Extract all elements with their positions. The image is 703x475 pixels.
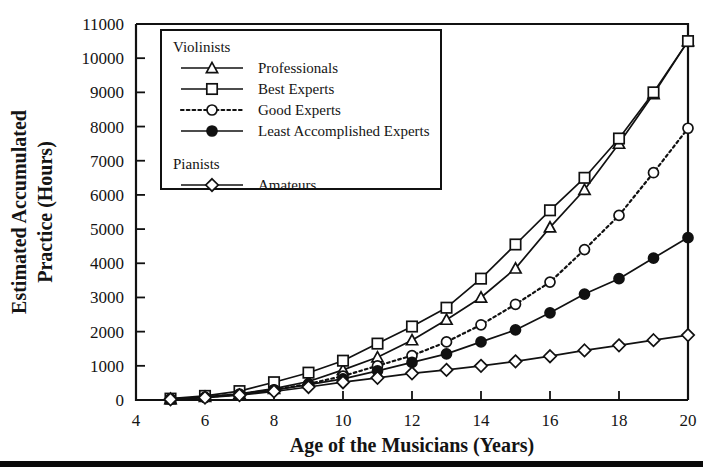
square-marker xyxy=(338,355,348,365)
legend-entry-label: Good Experts xyxy=(258,102,341,118)
square-marker xyxy=(579,173,589,183)
x-tick-label: 14 xyxy=(473,411,491,430)
x-tick-label: 16 xyxy=(542,411,559,430)
x-axis-title: Age of the Musicians (Years) xyxy=(290,434,534,457)
square-marker xyxy=(372,338,382,348)
circle-marker xyxy=(683,123,693,133)
y-tick-label: 3000 xyxy=(90,288,124,307)
legend-entry-label: Least Accomplished Experts xyxy=(258,123,430,139)
filled-circle-marker xyxy=(476,337,486,347)
filled-circle-marker xyxy=(580,289,590,299)
x-tick-label: 8 xyxy=(270,411,279,430)
diamond-marker xyxy=(578,344,590,356)
circle-marker xyxy=(649,168,659,178)
series-least-accomplished-experts xyxy=(166,233,694,405)
x-tick-label: 10 xyxy=(335,411,352,430)
triangle-marker xyxy=(441,314,452,324)
x-tick-label: 20 xyxy=(680,411,697,430)
square-marker xyxy=(510,239,520,249)
circle-marker xyxy=(476,320,486,330)
filled-circle-marker xyxy=(683,233,693,243)
circle-marker xyxy=(545,277,555,287)
diamond-marker xyxy=(682,329,694,341)
square-marker xyxy=(683,36,693,46)
square-marker xyxy=(441,303,451,313)
diamond-marker xyxy=(613,339,625,351)
diamond-marker xyxy=(647,334,659,346)
y-tick-label: 10000 xyxy=(82,49,125,68)
x-axis-tick-labels: 468101214161820 xyxy=(132,411,697,430)
filled-circle-marker xyxy=(407,357,417,367)
diamond-marker xyxy=(544,350,556,362)
bottom-divider-rule xyxy=(0,461,703,467)
triangle-marker xyxy=(406,335,417,345)
filled-circle-marker xyxy=(442,349,452,359)
y-tick-label: 7000 xyxy=(90,152,124,171)
diamond-marker xyxy=(406,367,418,379)
x-tick-label: 6 xyxy=(201,411,210,430)
circle-marker xyxy=(511,299,521,309)
y-tick-label: 1000 xyxy=(90,357,124,376)
y-axis-title-line1: Estimated Accumulated xyxy=(8,110,30,314)
x-tick-label: 4 xyxy=(132,411,141,430)
x-tick-label: 18 xyxy=(611,411,628,430)
circle-marker xyxy=(207,105,217,115)
filled-circle-marker xyxy=(207,126,217,136)
filled-circle-marker xyxy=(614,274,624,284)
y-tick-label: 8000 xyxy=(90,118,124,137)
legend-entry-label: Best Experts xyxy=(258,81,334,97)
circle-marker xyxy=(442,337,452,347)
series-line xyxy=(171,238,689,400)
legend-group-heading: Pianists xyxy=(173,156,220,172)
square-marker xyxy=(648,87,658,97)
y-axis-tick-marks xyxy=(136,24,145,400)
filled-circle-marker xyxy=(649,253,659,263)
diamond-marker xyxy=(475,360,487,372)
y-tick-label: 5000 xyxy=(90,220,124,239)
chart-svg: 0100020003000400050006000700080009000100… xyxy=(0,0,703,475)
x-tick-label: 12 xyxy=(404,411,421,430)
square-marker xyxy=(207,84,217,94)
square-marker xyxy=(303,367,313,377)
square-marker xyxy=(545,205,555,215)
diamond-marker xyxy=(440,364,452,376)
y-axis-title-line2: Practice (Hours) xyxy=(34,141,57,283)
filled-circle-marker xyxy=(511,325,521,335)
filled-circle-marker xyxy=(545,308,555,318)
y-tick-label: 2000 xyxy=(90,323,124,342)
square-marker xyxy=(407,321,417,331)
y-tick-label: 0 xyxy=(116,391,125,410)
chart-figure: 0100020003000400050006000700080009000100… xyxy=(0,0,703,475)
circle-marker xyxy=(614,210,624,220)
series-amateurs xyxy=(164,329,694,406)
legend-group-heading: Violinists xyxy=(173,39,231,55)
circle-marker xyxy=(580,245,590,255)
y-tick-label: 9000 xyxy=(90,83,124,102)
y-tick-label: 11000 xyxy=(82,15,124,34)
legend-entry-label: Professionals xyxy=(258,60,338,76)
square-marker xyxy=(614,133,624,143)
y-tick-label: 4000 xyxy=(90,254,124,273)
diamond-marker xyxy=(509,355,521,367)
y-tick-label: 6000 xyxy=(90,186,124,205)
legend-entry-label: Amateurs xyxy=(258,177,316,193)
y-axis-tick-labels: 0100020003000400050006000700080009000100… xyxy=(82,15,125,410)
square-marker xyxy=(476,273,486,283)
